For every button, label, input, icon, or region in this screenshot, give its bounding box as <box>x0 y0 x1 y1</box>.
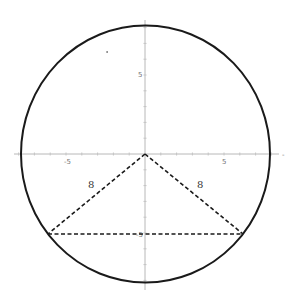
side-length-label-right: 8 <box>197 179 203 190</box>
y-tick-label-5: 5 <box>138 71 142 79</box>
x-tick-label-5: 5 <box>222 158 226 166</box>
triangle-side-right <box>145 154 243 234</box>
y-tick-label-neg5: -5 <box>136 231 143 239</box>
stray-mark <box>107 51 108 53</box>
x-tick-label-neg5: -5 <box>64 158 71 166</box>
x-axis-arrow-mark: - <box>282 151 285 159</box>
geometry-diagram: - -5 5 5 -5 8 8 <box>0 0 293 300</box>
side-length-label-left: 8 <box>88 179 94 190</box>
triangle-side-left <box>48 154 145 234</box>
